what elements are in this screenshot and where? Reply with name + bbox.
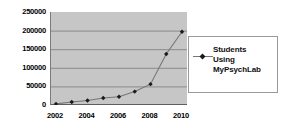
x-axis-tick-label: 2010 (164, 111, 198, 120)
x-axis-tick-label: 2004 (70, 111, 104, 120)
diamond-marker-icon (193, 47, 213, 56)
chart-container: 050000100000150000200000250000 200220042… (0, 0, 285, 128)
y-axis-tick-label: 50000 (2, 82, 46, 90)
y-axis-tick-label: 250000 (2, 8, 46, 16)
plot-area (50, 12, 187, 105)
x-axis-tick-label: 2006 (101, 111, 135, 120)
x-axis-tick-label: 2002 (38, 111, 72, 120)
y-axis-tick-label: 200000 (2, 27, 46, 35)
data-series-markers (54, 30, 184, 105)
y-axis-tick-label: 0 (2, 101, 46, 109)
legend-entry-label: Students Using MyPsychLab (213, 45, 261, 75)
x-axis-tick-label: 2008 (133, 111, 167, 120)
chart-plot-svg (51, 12, 187, 105)
y-axis-tick-labels: 050000100000150000200000250000 (0, 0, 46, 128)
legend-entry: Students Using MyPsychLab (193, 45, 277, 75)
gridlines (51, 31, 187, 105)
x-axis-tick-labels: 20022004200620082010 (0, 111, 285, 123)
y-axis-tick-label: 150000 (2, 45, 46, 53)
chart-legend: Students Using MyPsychLab (188, 36, 278, 93)
data-series-line (56, 32, 182, 104)
y-axis-tick-label: 100000 (2, 64, 46, 72)
